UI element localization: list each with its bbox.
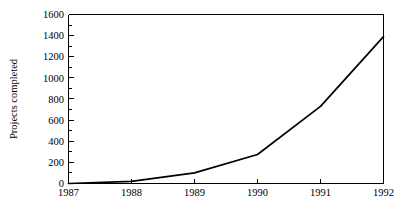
y-tick-label: 1200 — [43, 51, 64, 62]
y-tick-label: 400 — [48, 136, 64, 147]
y-axis-title: Projects completed — [8, 58, 19, 139]
y-tick-label: 200 — [48, 157, 64, 168]
y-tick-label: 1400 — [43, 30, 64, 41]
x-tick-label: 1989 — [184, 187, 205, 198]
chart-figure: 1600 1400 1200 1000 800 600 400 200 0 Pr… — [0, 0, 402, 211]
x-tick-label: 1988 — [121, 187, 142, 198]
line-chart: 1600 1400 1200 1000 800 600 400 200 0 Pr… — [0, 0, 402, 211]
y-tick-label: 800 — [48, 94, 64, 105]
x-tick-label: 1992 — [373, 187, 394, 198]
x-tick-label: 1991 — [310, 187, 331, 198]
x-tick-label: 1990 — [247, 187, 268, 198]
y-tick-label: 1000 — [43, 73, 64, 84]
x-tick-label: 1987 — [58, 187, 79, 198]
y-tick-label: 600 — [48, 115, 64, 126]
y-tick-label: 1600 — [43, 9, 64, 20]
